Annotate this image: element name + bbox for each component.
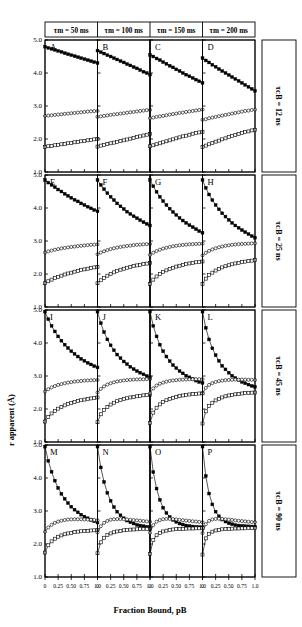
data-marker-open-square (142, 134, 145, 137)
data-marker-filled-square (234, 77, 237, 80)
panel-frame (150, 445, 203, 577)
data-marker-open-circle (60, 383, 63, 386)
series-open-circle (96, 378, 152, 394)
data-marker-filled-square (47, 181, 50, 184)
data-marker-filled-square (132, 66, 135, 69)
data-marker-open-square (165, 269, 168, 272)
data-marker-filled-square (106, 491, 109, 494)
data-marker-open-circle (240, 110, 243, 113)
data-marker-open-square (221, 396, 224, 399)
data-marker-open-circle (214, 517, 217, 520)
data-marker-filled-square (112, 199, 115, 202)
data-marker-filled-square (188, 224, 191, 227)
data-marker-open-square (175, 395, 178, 398)
data-marker-filled-square (214, 354, 217, 357)
data-marker-open-circle (240, 242, 243, 245)
data-marker-open-circle (83, 110, 86, 113)
series-line (98, 529, 151, 553)
data-marker-open-square (191, 261, 194, 264)
data-marker-open-circle (73, 518, 76, 521)
data-marker-open-circle (237, 111, 240, 114)
data-marker-filled-square (53, 330, 56, 333)
data-marker-open-square (57, 143, 60, 146)
panel-frame (98, 40, 151, 172)
data-marker-open-square (204, 410, 207, 413)
data-marker-open-circle (86, 518, 89, 521)
data-marker-filled-square (119, 514, 122, 517)
data-marker-open-circle (247, 378, 250, 381)
y-tick-label: 5.0 (33, 36, 42, 44)
data-marker-filled-square (214, 204, 217, 207)
data-marker-filled-square (244, 382, 247, 385)
y-tick-label: 4.0 (33, 69, 42, 77)
data-marker-open-square (109, 273, 112, 276)
data-marker-open-square (181, 135, 184, 138)
data-marker-open-square (158, 403, 161, 406)
data-marker-open-circle (171, 113, 174, 116)
data-marker-filled-square (181, 372, 184, 375)
data-marker-open-square (208, 532, 211, 535)
data-marker-open-circle (191, 243, 194, 246)
data-marker-filled-square (227, 371, 230, 374)
data-marker-filled-square (129, 212, 132, 215)
data-marker-open-circle (250, 108, 253, 111)
data-marker-open-circle (47, 114, 50, 117)
data-marker-open-square (119, 399, 122, 402)
data-marker-open-circle (234, 378, 237, 381)
y-tick-label: 3.0 (33, 237, 42, 245)
data-marker-open-circle (47, 250, 50, 253)
panel-P: 00.250.500.751.0P (201, 445, 259, 589)
data-marker-filled-square (57, 335, 60, 338)
data-marker-open-circle (99, 115, 102, 118)
data-marker-filled-square (211, 63, 214, 66)
data-marker-filled-square (250, 235, 253, 238)
data-marker-open-square (73, 270, 76, 273)
data-marker-open-square (250, 527, 253, 530)
data-marker-filled-square (165, 512, 168, 515)
data-marker-open-circle (53, 248, 56, 251)
series-open-square (201, 128, 257, 148)
data-marker-open-circle (139, 243, 142, 246)
data-marker-open-circle (168, 379, 171, 382)
data-marker-filled-square (224, 368, 227, 371)
data-marker-filled-square (168, 360, 171, 363)
data-marker-filled-square (152, 324, 155, 327)
data-marker-open-square (181, 394, 184, 397)
data-marker-filled-square (188, 75, 191, 78)
data-marker-open-circle (142, 243, 145, 246)
data-marker-open-circle (214, 380, 217, 383)
data-marker-open-circle (142, 378, 145, 381)
data-marker-open-square (185, 527, 188, 530)
data-marker-open-circle (80, 518, 83, 521)
x-tick-label: 0.75 (237, 583, 247, 589)
data-marker-filled-square (80, 513, 83, 516)
data-marker-open-square (221, 138, 224, 141)
data-marker-open-square (211, 141, 214, 144)
data-marker-open-circle (119, 112, 122, 115)
data-marker-filled-square (155, 335, 158, 338)
data-marker-open-circle (109, 248, 112, 251)
data-marker-open-circle (185, 243, 188, 246)
data-marker-open-circle (185, 378, 188, 381)
x-tick-label: 0.25 (106, 583, 116, 589)
data-marker-open-circle (158, 248, 161, 251)
series-open-square (96, 393, 152, 424)
data-marker-open-square (247, 130, 250, 133)
data-marker-open-circle (191, 520, 194, 523)
panel-frame-overlay (98, 175, 151, 307)
data-marker-open-square (86, 397, 89, 400)
column-header-label-4: τm = 200 ms (210, 27, 249, 35)
data-marker-filled-square (221, 364, 224, 367)
data-marker-open-circle (211, 248, 214, 251)
data-marker-open-circle (178, 518, 181, 521)
data-marker-filled-square (139, 371, 142, 374)
data-marker-open-square (112, 531, 115, 534)
data-marker-filled-square (237, 226, 240, 229)
data-marker-open-square (103, 408, 106, 411)
data-marker-open-circle (129, 378, 132, 381)
data-marker-open-square (83, 268, 86, 271)
data-marker-open-square (152, 144, 155, 147)
data-marker-filled-square (240, 81, 243, 84)
data-marker-open-circle (221, 114, 224, 117)
data-marker-open-circle (135, 243, 138, 246)
